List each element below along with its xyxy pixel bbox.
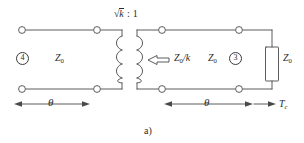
impedance-label-right: Z0 [208, 53, 217, 65]
circled-number-3: 3 [229, 52, 242, 65]
secondary-coil-loop-1 [137, 36, 143, 50]
secondary-coil-loop-2 [137, 50, 143, 64]
circuit-schematic-svg [0, 0, 304, 143]
tc-subscript: c [285, 103, 288, 110]
theta-left-arrowhead-right [82, 101, 90, 107]
terminal-bottom-mid-right [159, 86, 166, 93]
impedance-label-middle: Z0/k [174, 53, 190, 65]
impedance-label-load: Z0 [283, 53, 292, 65]
load-resistor-body [266, 47, 279, 81]
terminal-bottom-mid-left [94, 86, 101, 93]
terminal-top-left [19, 27, 26, 34]
ratio-separator: : [124, 8, 132, 19]
theta-label-right: θ [204, 97, 209, 108]
terminal-bottom-left [19, 86, 26, 93]
ratio-right-value: 1 [133, 8, 138, 19]
impedance-divisor: /k [183, 52, 190, 63]
secondary-coil-loop-3 [137, 64, 143, 78]
terminal-top-right [236, 27, 243, 34]
theta-right-arrowhead-right [245, 101, 253, 107]
impedance-subscript: 0 [214, 57, 217, 64]
left-pointing-block-arrow [148, 56, 169, 65]
theta-left-arrowhead-left [14, 101, 22, 107]
secondary-coil-loop-4 [137, 78, 142, 83]
terminal-top-mid-right [159, 27, 166, 34]
transformer-ratio-label: √k : 1 [114, 8, 138, 19]
figure-caption: a) [144, 126, 152, 136]
circuit-diagram-figure: √k : 1 4 Z0 Z0/k Z0 3 Z0 θ θ Tc a) [0, 0, 304, 143]
port-label-4: 4 [16, 52, 29, 65]
terminal-bottom-right [236, 86, 243, 93]
tc-arrowhead [268, 101, 276, 107]
impedance-subscript: 0 [289, 57, 292, 64]
circled-number-4: 4 [16, 52, 29, 65]
theta-right-arrowhead-left [164, 101, 172, 107]
primary-coil-loop-2 [116, 50, 122, 64]
primary-coil-loop-4 [117, 78, 122, 83]
impedance-subscript: 0 [61, 57, 64, 64]
primary-coil-loop-1 [116, 36, 122, 50]
impedance-label-left: Z0 [55, 53, 64, 65]
port-label-3: 3 [229, 52, 242, 65]
theta-label-left: θ [48, 97, 53, 108]
primary-coil-loop-3 [116, 64, 122, 78]
terminal-top-mid-left [94, 27, 101, 34]
reference-plane-label-tc: Tc [279, 99, 288, 111]
